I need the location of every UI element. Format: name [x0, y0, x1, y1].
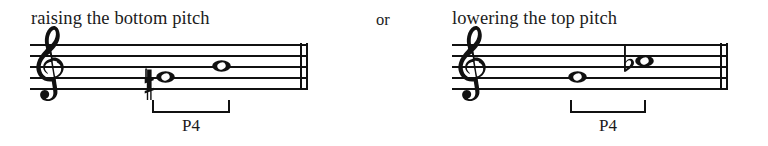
double-barline-stroke-2	[306, 43, 308, 89]
note-upper-left	[212, 60, 231, 72]
staff-line-5	[30, 44, 308, 46]
interval-bracket-left	[152, 100, 230, 113]
bracket-tick-end	[228, 100, 230, 113]
bracket-bar	[152, 111, 230, 113]
bracket-bar	[570, 111, 646, 113]
double-barline-stroke-2	[726, 43, 728, 89]
staff-line-1	[452, 88, 728, 90]
music-notation-figure: raising the bottom pitch	[0, 0, 768, 146]
staff-line-5	[452, 44, 728, 46]
staff-line-3	[452, 66, 728, 68]
caption-raising-bottom-pitch: raising the bottom pitch	[31, 8, 210, 28]
staff-line-3	[30, 66, 308, 68]
connector-or: or	[376, 10, 390, 30]
double-barline-stroke-1	[720, 43, 722, 89]
interval-label-left: P4	[152, 117, 230, 135]
flat-accidental-icon	[622, 44, 635, 72]
bracket-tick-end	[644, 100, 646, 113]
double-barline-stroke-1	[300, 43, 302, 89]
treble-clef-icon	[34, 26, 68, 104]
staff-line-1	[30, 88, 308, 90]
treble-clef-icon	[456, 26, 490, 104]
staff-line-2	[452, 77, 728, 79]
example-raising-bottom-pitch: raising the bottom pitch	[0, 0, 340, 146]
note-lower-right	[568, 71, 587, 83]
interval-bracket-right	[570, 100, 646, 113]
note-lower-left	[156, 71, 175, 83]
staff-right	[452, 44, 728, 88]
staff-line-4	[30, 55, 308, 57]
interval-label-right: P4	[570, 117, 646, 135]
note-upper-right	[635, 55, 654, 67]
example-lowering-top-pitch: lowering the top pitch	[420, 0, 768, 146]
caption-lowering-top-pitch: lowering the top pitch	[452, 8, 617, 28]
sharp-accidental-icon	[142, 68, 155, 100]
staff-line-4	[452, 55, 728, 57]
